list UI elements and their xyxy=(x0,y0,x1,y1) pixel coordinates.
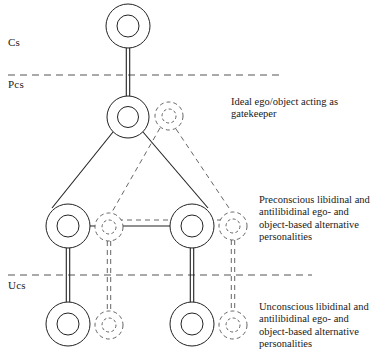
node-pcs-left-ego xyxy=(46,204,90,248)
node-ideal-ego-object xyxy=(107,96,149,138)
node-ucs-right-shadow-inner-ring xyxy=(226,318,240,332)
node-pcs-left-shadow xyxy=(95,213,123,241)
node-pcs-right-ego xyxy=(170,204,214,248)
annotation-preconscious-personalities: Preconscious libidinal and antilibidinal… xyxy=(259,194,387,244)
node-pcs-right-shadow-inner-ring xyxy=(226,219,240,233)
node-ucs-right-ego-inner-ring xyxy=(181,313,203,335)
edge-shadow-to-right-shadow xyxy=(176,129,231,211)
annotation-unconscious-personalities: Unconscious libidinal and antilibidinal … xyxy=(259,301,387,351)
node-group xyxy=(46,4,247,346)
diagram-canvas: Cs Pcs Ucs Ideal ego/object acting as ga… xyxy=(0,0,388,354)
node-central-ego-inner-ring xyxy=(117,15,139,37)
node-ucs-left-ego xyxy=(46,302,90,346)
node-central-ego xyxy=(106,4,150,48)
node-ucs-right-shadow xyxy=(219,311,247,339)
node-pcs-left-shadow-inner-ring xyxy=(102,220,116,234)
node-ideal-ego-shadow-inner-ring xyxy=(162,109,176,123)
edge-shadow-to-left-shadow xyxy=(112,128,160,212)
node-pcs-left-ego-inner-ring xyxy=(57,215,79,237)
edge-pcs-to-right xyxy=(143,132,208,208)
node-ideal-ego-object-inner-ring xyxy=(118,107,139,128)
node-ucs-right-ego xyxy=(170,302,214,346)
edge-group xyxy=(52,48,235,311)
node-ucs-left-shadow xyxy=(95,311,123,339)
layer-label-cs: Cs xyxy=(8,36,20,48)
node-ucs-left-shadow-inner-ring xyxy=(102,318,116,332)
annotation-gatekeeper: Ideal ego/object acting as gatekeeper xyxy=(231,96,383,121)
node-pcs-right-shadow xyxy=(219,212,247,240)
edge-pcs-to-left xyxy=(52,132,113,208)
node-pcs-right-ego-inner-ring xyxy=(181,215,203,237)
layer-label-ucs: Ucs xyxy=(8,279,26,291)
node-ideal-ego-shadow xyxy=(155,102,183,130)
layer-label-pcs: Pcs xyxy=(8,78,24,90)
node-ucs-left-ego-inner-ring xyxy=(57,313,79,335)
